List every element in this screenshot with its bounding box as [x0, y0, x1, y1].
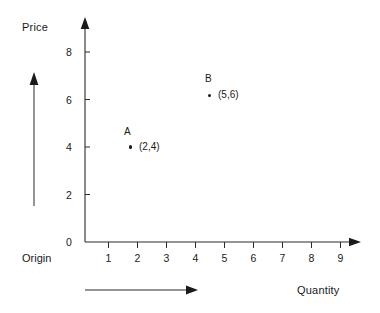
price-direction-arrow — [30, 72, 39, 206]
x-tick-label-6: 6 — [247, 252, 261, 264]
x-tick-label-5: 5 — [218, 252, 232, 264]
y-tick-label-0: 0 — [62, 236, 76, 248]
y-axis — [81, 17, 90, 242]
data-point-marker-a — [129, 145, 133, 149]
x-tick-label-8: 8 — [305, 252, 319, 264]
price-quantity-scatter-chart: Price Quantity Origin 8 6 4 2 0 1 2 3 4 … — [0, 0, 380, 313]
data-point-label-b: B — [205, 73, 212, 84]
x-tick-label-9: 9 — [334, 252, 348, 264]
data-point-marker-b — [208, 94, 212, 98]
x-tick-label-3: 3 — [160, 252, 174, 264]
x-axis-title: Quantity — [297, 284, 340, 296]
data-point-coord-a: (2,4) — [139, 141, 160, 152]
x-tick-label-7: 7 — [276, 252, 290, 264]
chart-vector-layer — [0, 0, 380, 313]
x-tick-label-4: 4 — [189, 252, 203, 264]
x-tick-label-2: 2 — [131, 252, 145, 264]
x-tick-label-1: 1 — [102, 252, 116, 264]
y-tick-label-6: 6 — [62, 94, 76, 106]
data-point-label-a: A — [124, 126, 131, 137]
y-tick-label-4: 4 — [62, 141, 76, 153]
x-axis — [85, 238, 361, 248]
origin-label: Origin — [22, 252, 51, 264]
y-axis-title: Price — [22, 21, 48, 33]
y-tick-label-2: 2 — [62, 189, 76, 201]
y-tick-label-8: 8 — [62, 46, 76, 58]
quantity-direction-arrow — [85, 286, 198, 295]
data-point-coord-b: (5,6) — [218, 89, 239, 100]
